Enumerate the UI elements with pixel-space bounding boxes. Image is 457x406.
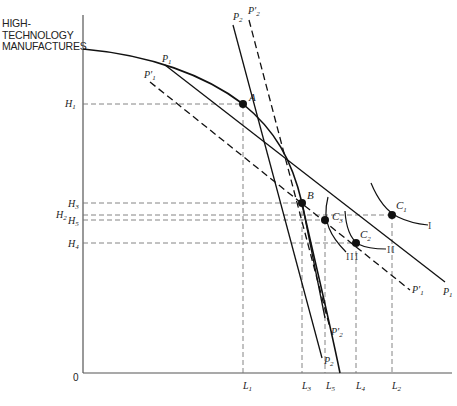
point-c1 — [388, 211, 396, 219]
tick-h2: H2 — [55, 209, 67, 222]
label-p2-top: P2 — [232, 11, 243, 24]
label-p1-prime-end: P'1 — [411, 284, 424, 297]
tick-l4: L4 — [355, 380, 366, 393]
label-p1-prime-top: P'1 — [143, 69, 156, 82]
label-c2: C2 — [360, 228, 371, 243]
production-possibility-curve — [83, 49, 340, 373]
tick-h3: H3 — [67, 198, 79, 211]
tick-h4: H4 — [67, 238, 79, 251]
trade-diagram: 0 A B C1 C2 C3 H1 H3 H2 H5 H4 L1 L — [0, 0, 457, 406]
label-b: B — [307, 189, 314, 201]
indifference-curve-iii — [326, 197, 346, 252]
label-ic-ii: II — [387, 244, 396, 255]
label-a: A — [248, 91, 256, 103]
price-line-p1 — [165, 65, 445, 282]
tick-l1: L1 — [242, 380, 252, 393]
tick-l2: L2 — [391, 380, 402, 393]
label-p1-end: P1 — [442, 286, 453, 299]
label-p2-prime-top: P'2 — [247, 5, 260, 18]
point-a — [239, 100, 247, 108]
horizontal-guides — [83, 104, 392, 243]
label-ic-i: I — [428, 220, 432, 231]
tick-h1: H1 — [64, 98, 76, 111]
tick-l3: L3 — [301, 380, 312, 393]
tick-h5: H5 — [67, 215, 79, 228]
label-ic-iii: III — [346, 251, 359, 262]
point-c3 — [321, 216, 329, 224]
tick-l5: L5 — [325, 380, 336, 393]
label-c1: C1 — [396, 199, 407, 214]
price-line-p1-prime — [150, 82, 410, 290]
point-c2 — [352, 239, 360, 247]
point-b — [298, 199, 306, 207]
origin-label: 0 — [73, 372, 79, 383]
label-c3: C3 — [332, 210, 343, 225]
